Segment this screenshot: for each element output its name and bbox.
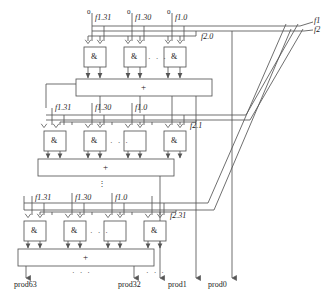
row1-operand-label-1: f1.30: [95, 104, 111, 112]
row2-gate-ellipsis: · · ·: [90, 229, 110, 237]
output-ellipsis-left: · · ·: [72, 269, 92, 277]
row0-gate-ellipsis: · · ·: [148, 55, 168, 63]
row1-and-gate-1[interactable]: &: [91, 137, 97, 145]
row0-adder-label: +: [141, 83, 146, 92]
row1-gate-ellipsis: · · ·: [110, 139, 130, 147]
bus-label-f1: f1: [314, 17, 320, 25]
output-label-prod0: prod0: [208, 281, 227, 289]
row1-operand-label-2: f1.0: [135, 104, 147, 112]
row2-adder-label: +: [83, 253, 88, 262]
output-label-prod1: prod1: [168, 281, 187, 289]
row0-zero-label-0: 0: [87, 9, 91, 16]
row2-operand-label-0: f1.31: [35, 194, 51, 202]
row0-operand-label-1: f1.30: [135, 14, 151, 22]
row0-and-gate-2[interactable]: &: [171, 53, 177, 61]
output-label-prod32: prod32: [118, 281, 141, 289]
bus-label-f2: f2: [314, 26, 320, 34]
output-label-prod63: prod63: [14, 281, 37, 289]
row0-and-gate-0[interactable]: &: [91, 53, 97, 61]
wiring-layer: [0, 0, 329, 301]
output-ellipsis-right: · · ·: [146, 269, 166, 277]
row2-operand-label-1: f1.30: [75, 194, 91, 202]
diagram-canvas: 0 0 0 f1.31 f1.30 f1.0 & & & · · · f2.0 …: [0, 0, 329, 301]
row0-and-gate-1[interactable]: &: [131, 53, 137, 61]
row0-zero-label-2: 0: [167, 9, 171, 16]
row1-control-label: f2.1: [190, 122, 202, 130]
rows-vertical-ellipsis: ⋮: [98, 180, 106, 188]
row2-control-label: f2.31: [170, 212, 186, 220]
row1-and-gate-3[interactable]: &: [171, 137, 177, 145]
row0-operand-label-0: f1.31: [95, 14, 111, 22]
row0-operand-label-2: f1.0: [175, 14, 187, 22]
row2-operand-label-2: f1.0: [115, 194, 127, 202]
row2-and-gate-0[interactable]: &: [31, 227, 37, 235]
row0-control-label: f2.0: [201, 33, 213, 41]
row1-operand-label-0: f1.31: [55, 104, 71, 112]
row2-and-gate-1[interactable]: &: [71, 227, 77, 235]
row1-adder-label: +: [103, 163, 108, 172]
row1-and-gate-0[interactable]: &: [51, 137, 57, 145]
row0-zero-label-1: 0: [127, 9, 131, 16]
row2-and-gate-3[interactable]: &: [151, 227, 157, 235]
